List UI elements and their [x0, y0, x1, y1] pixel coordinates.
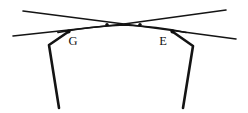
- label-point-g: G: [68, 34, 77, 48]
- curved-surface-arc: [58, 25, 186, 33]
- right-leg: [173, 32, 193, 108]
- line-diagram: G E: [0, 0, 248, 113]
- left-leg: [49, 32, 68, 108]
- point-g-dot: [66, 29, 70, 33]
- point-center-left-dot: [105, 23, 108, 26]
- label-point-e: E: [159, 34, 167, 48]
- figure-container: G E: [0, 0, 248, 113]
- point-center-right-dot: [138, 23, 141, 26]
- point-e-dot: [170, 29, 174, 33]
